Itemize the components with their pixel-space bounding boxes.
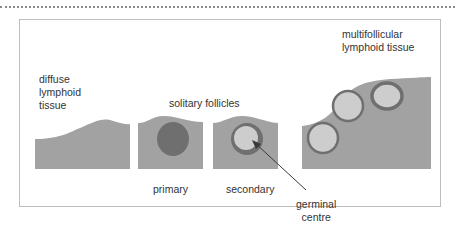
- diffuse-label-line-1: diffuse: [39, 73, 81, 86]
- secondary-label: secondary: [226, 183, 274, 196]
- diffuse-label: diffuse lymphoid tissue: [39, 73, 81, 112]
- germinal-centre-label-line-1: germinal: [296, 198, 336, 211]
- germinal-centre-label-line-2: centre: [296, 211, 336, 224]
- primary-follicle: [157, 122, 189, 156]
- diffuse-label-line-3: tissue: [39, 99, 81, 112]
- multifollicular-follicle-3: [372, 83, 402, 109]
- multifollicular-label-line-2: lymphoid tissue: [342, 41, 414, 54]
- primary-label: primary: [153, 183, 188, 196]
- solitary-follicles-label: solitary follicles: [169, 97, 240, 110]
- germinal-centre: [234, 126, 258, 150]
- multifollicular-label-line-1: multifollicular: [342, 28, 414, 41]
- multifollicular-follicle-2: [333, 91, 363, 121]
- diffuse-label-line-2: lymphoid: [39, 86, 81, 99]
- multifollicular-follicle-1: [308, 123, 338, 153]
- multifollicular-label: multifollicular lymphoid tissue: [342, 28, 414, 54]
- germinal-centre-label: germinal centre: [296, 198, 336, 224]
- diffuse-tissue-shape: [35, 120, 130, 169]
